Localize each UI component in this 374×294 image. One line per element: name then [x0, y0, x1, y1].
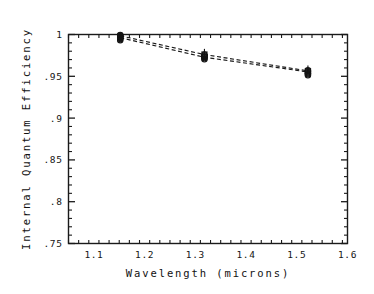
chart-figure: 1.11.21.31.41.51.6 .75.8.85.9.951 Wavele…: [0, 0, 374, 294]
x-tick-label: 1.6: [338, 249, 357, 260]
y-tick-label: .85: [44, 154, 63, 165]
x-axis-ticks: [69, 35, 343, 244]
x-tick-label: 1.2: [135, 249, 154, 260]
y-tick-label: .8: [50, 196, 63, 207]
fit-upper: [120, 36, 308, 71]
plot-frame: [69, 35, 348, 244]
quantum-efficiency-scatter-plot: 1.11.21.31.41.51.6 .75.8.85.9.951 Wavele…: [0, 0, 374, 294]
y-axis-title: Internal Quantum Efficiency: [20, 28, 32, 250]
fit-lines-group: [120, 36, 308, 72]
x-tick-label: 1.3: [186, 249, 205, 260]
fit-lower: [120, 38, 308, 72]
x-axis-tick-labels: 1.11.21.31.41.51.6: [84, 249, 357, 260]
x-axis-title: Wavelength (microns): [126, 267, 290, 279]
y-axis-tick-labels: .75.8.85.9.951: [44, 29, 63, 249]
data-markers-group: [117, 32, 311, 78]
x-tick-label: 1.1: [84, 249, 103, 260]
y-tick-label: .75: [44, 238, 63, 249]
y-tick-label: 1: [56, 29, 62, 40]
y-axis-ticks: [69, 35, 348, 244]
y-tick-label: .9: [50, 113, 63, 124]
y-tick-label: .95: [44, 71, 63, 82]
x-tick-label: 1.5: [287, 249, 306, 260]
x-tick-label: 1.4: [237, 249, 256, 260]
